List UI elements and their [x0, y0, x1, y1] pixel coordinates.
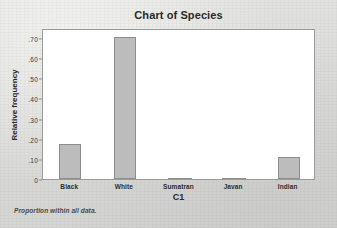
y-axis: Relative frequency 0.10.20.30.40.50.60.7… — [0, 29, 42, 180]
bar-black — [59, 144, 81, 179]
y-axis-tick-label: .10 — [28, 156, 38, 163]
bar-white — [114, 37, 136, 179]
bar-javan — [222, 178, 246, 179]
x-axis-tick-label-indian: Indian — [258, 183, 318, 190]
x-axis-tick-label-white: White — [94, 183, 154, 190]
y-axis-tick-label: .60 — [28, 56, 38, 63]
bar-indian — [278, 157, 300, 179]
y-axis-tick-label: .40 — [28, 96, 38, 103]
y-axis-tick-label: .20 — [28, 136, 38, 143]
chart-title: Chart of Species — [42, 9, 315, 21]
chart-footnote: Proportion within all data. — [14, 207, 97, 214]
x-axis-tick-label-sumatran: Sumatran — [149, 183, 209, 190]
bar-sumatran — [168, 178, 192, 179]
x-axis-tick-label-javan: Javan — [203, 183, 263, 190]
bars-container — [43, 30, 314, 179]
y-axis-tick-label: .50 — [28, 76, 38, 83]
x-axis-tick-label-black: Black — [39, 183, 99, 190]
y-axis-title: Relative frequency — [10, 45, 19, 165]
y-axis-tick-label: 0 — [34, 177, 38, 184]
y-axis-tick-label: .30 — [28, 116, 38, 123]
plot-area — [42, 29, 315, 180]
y-axis-tick-label: .70 — [28, 36, 38, 43]
x-axis-title: C1 — [42, 192, 315, 202]
bar-chart-figure: Chart of Species Relative frequency 0.10… — [0, 0, 337, 228]
